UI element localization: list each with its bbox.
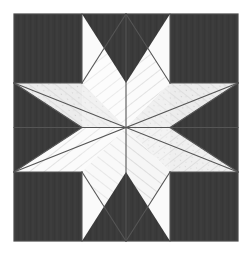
corner-square-bottom-left xyxy=(14,172,82,241)
quilt-block-canvas xyxy=(0,0,250,255)
corner-square-top-left xyxy=(14,14,82,83)
corner-square-top-right xyxy=(170,14,238,83)
corner-square-bottom-right xyxy=(170,172,238,241)
quilt-block-artwork xyxy=(0,0,250,255)
